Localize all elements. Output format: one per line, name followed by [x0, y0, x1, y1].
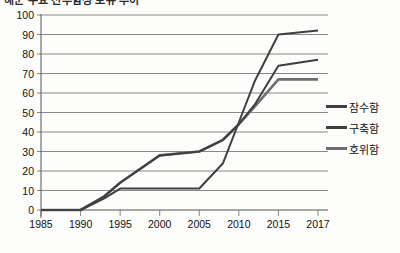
- series-line-잠수함: [41, 31, 318, 210]
- x-axis-tick-label: 1990: [69, 219, 92, 230]
- legend-item-label: 호위함: [349, 141, 378, 157]
- legend-item-label: 잠수함: [349, 99, 378, 115]
- chart-title-text: 해군 주요 전투함정 보유 추이: [4, 0, 139, 7]
- x-axis-tick-label: 2015: [267, 219, 290, 230]
- legend-color-swatch: [326, 126, 347, 129]
- x-axis-tick-label: 1985: [29, 219, 52, 230]
- legend-color-swatch: [326, 147, 347, 150]
- chart-legend: 잠수함구축함호위함: [326, 96, 400, 159]
- line-chart: 해군 주요 전투함정 보유 추이 0102030405060708090100 …: [0, 0, 400, 253]
- x-axis-tick-label: 2010: [227, 219, 250, 230]
- x-axis-tick-labels: 19851990199520002005201020152017: [0, 219, 330, 241]
- x-axis-tick-label: 2017: [306, 219, 329, 230]
- x-axis-tick-label: 2000: [148, 219, 171, 230]
- legend-item-label: 구축함: [349, 120, 378, 136]
- legend-item[interactable]: 호위함: [326, 138, 400, 159]
- plot-area-wrapper: 0102030405060708090100 19851990199520002…: [0, 9, 330, 253]
- legend-item[interactable]: 잠수함: [326, 96, 400, 117]
- plot-canvas: [0, 9, 330, 224]
- legend-color-swatch: [326, 105, 347, 108]
- x-axis-tick-label: 1995: [108, 219, 131, 230]
- x-axis-tick-label: 2005: [188, 219, 211, 230]
- chart-title-cropped: 해군 주요 전투함정 보유 추이: [0, 0, 400, 9]
- plot-svg: [0, 9, 330, 224]
- legend-item[interactable]: 구축함: [326, 117, 400, 138]
